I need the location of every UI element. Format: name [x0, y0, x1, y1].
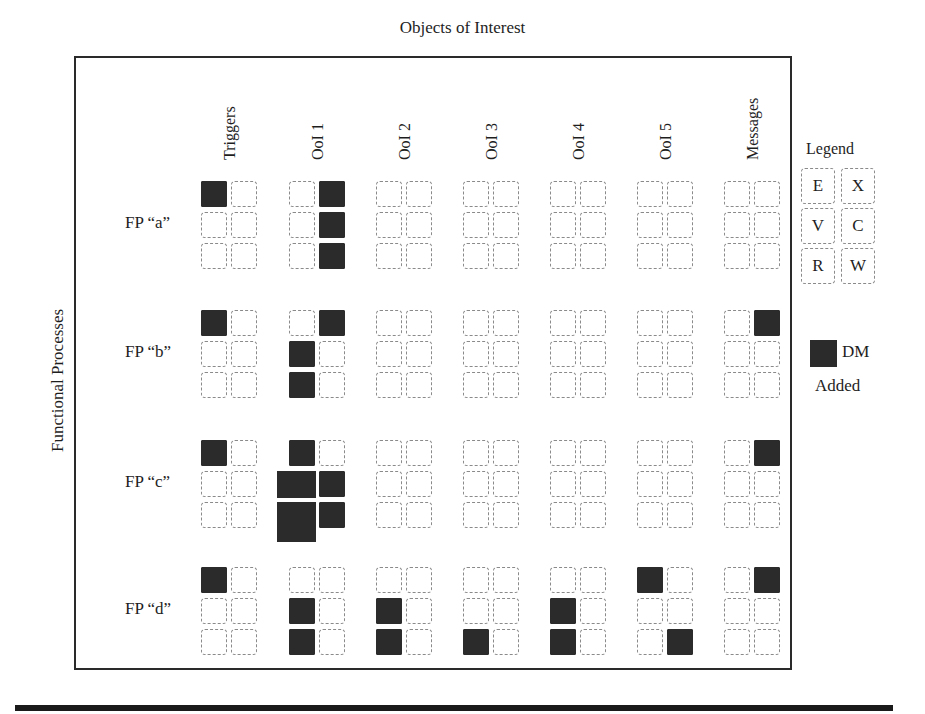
data-movement-cell-empty: [724, 310, 750, 336]
data-movement-cell-empty: [637, 310, 663, 336]
data-movement-cell-empty: [406, 212, 432, 238]
data-movement-cell-empty: [231, 440, 257, 466]
data-movement-cell-empty: [231, 212, 257, 238]
data-movement-cell-empty: [463, 598, 489, 624]
legend-cell-c: C: [841, 208, 875, 244]
legend-cell-e: E: [801, 168, 835, 204]
data-movement-cell-empty: [637, 372, 663, 398]
data-movement-cell-empty: [319, 567, 345, 593]
data-movement-cell-empty: [201, 212, 227, 238]
data-movement-cell-empty: [376, 372, 402, 398]
data-movement-cell-empty: [550, 212, 576, 238]
diagram-title: Objects of Interest: [0, 18, 925, 38]
data-movement-cell-empty: [319, 629, 345, 655]
data-movement-cell-empty: [580, 181, 606, 207]
data-movement-cell-empty: [376, 471, 402, 497]
data-movement-cell-empty: [463, 181, 489, 207]
data-movement-cell-empty: [493, 310, 519, 336]
data-movement-cell-empty: [463, 440, 489, 466]
data-movement-cell-empty: [637, 243, 663, 269]
column-header-ooi-5: OoI 5: [657, 123, 675, 160]
column-header-triggers: Triggers: [221, 106, 239, 160]
data-movement-cell-empty: [724, 471, 750, 497]
data-movement-cell-filled-large: [277, 471, 316, 498]
data-movement-cell-empty: [463, 502, 489, 528]
data-movement-cell-empty: [667, 440, 693, 466]
data-movement-cell-empty: [550, 440, 576, 466]
data-movement-cell-empty: [724, 243, 750, 269]
data-movement-cell-empty: [580, 243, 606, 269]
data-movement-cell-filled: [376, 598, 402, 624]
data-movement-cell-empty: [754, 629, 780, 655]
data-movement-cell-empty: [667, 598, 693, 624]
data-movement-cell-empty: [376, 440, 402, 466]
data-movement-cell-empty: [231, 502, 257, 528]
data-movement-cell-empty: [493, 471, 519, 497]
data-movement-cell-empty: [724, 372, 750, 398]
data-movement-cell-empty: [231, 372, 257, 398]
data-movement-cell-empty: [667, 212, 693, 238]
data-movement-cell-empty: [231, 598, 257, 624]
data-movement-cell-filled: [376, 629, 402, 655]
column-header-ooi-2: OoI 2: [396, 123, 414, 160]
data-movement-cell-empty: [580, 567, 606, 593]
data-movement-cell-empty: [319, 372, 345, 398]
data-movement-cell-empty: [406, 181, 432, 207]
legend-title: Legend: [806, 140, 854, 158]
data-movement-cell-empty: [550, 310, 576, 336]
data-movement-cell-empty: [550, 502, 576, 528]
data-movement-cell-empty: [406, 502, 432, 528]
data-movement-cell-empty: [289, 310, 315, 336]
data-movement-cell-filled: [201, 567, 227, 593]
data-movement-cell-empty: [289, 212, 315, 238]
data-movement-cell-empty: [463, 310, 489, 336]
data-movement-cell-empty: [289, 567, 315, 593]
data-movement-cell-empty: [637, 629, 663, 655]
data-movement-cell-empty: [580, 502, 606, 528]
data-movement-cell-filled: [289, 598, 315, 624]
data-movement-cell-empty: [463, 567, 489, 593]
data-movement-cell-empty: [376, 243, 402, 269]
data-movement-cell-empty: [667, 567, 693, 593]
data-movement-cell-empty: [376, 341, 402, 367]
data-movement-cell-empty: [493, 341, 519, 367]
column-header-messages: Messages: [744, 98, 762, 160]
data-movement-cell-filled: [754, 440, 780, 466]
data-movement-cell-empty: [201, 598, 227, 624]
data-movement-cell-filled: [289, 440, 315, 466]
y-axis-label: Functional Processes: [48, 309, 68, 452]
data-movement-cell-filled: [319, 212, 345, 238]
data-movement-cell-filled: [463, 629, 489, 655]
data-movement-cell-empty: [406, 372, 432, 398]
data-movement-cell-empty: [580, 341, 606, 367]
data-movement-cell-empty: [724, 212, 750, 238]
data-movement-cell-empty: [493, 598, 519, 624]
data-movement-cell-empty: [754, 341, 780, 367]
data-movement-cell-empty: [376, 502, 402, 528]
data-movement-cell-empty: [580, 598, 606, 624]
data-movement-cell-empty: [550, 471, 576, 497]
data-movement-cell-empty: [231, 567, 257, 593]
data-movement-cell-empty: [667, 502, 693, 528]
data-movement-cell-empty: [201, 243, 227, 269]
data-movement-cell-empty: [493, 629, 519, 655]
data-movement-cell-empty: [550, 567, 576, 593]
data-movement-cell-filled: [201, 181, 227, 207]
data-movement-cell-empty: [580, 310, 606, 336]
dm-swatch: [810, 340, 837, 367]
data-movement-cell-filled: [637, 567, 663, 593]
data-movement-cell-empty: [754, 212, 780, 238]
data-movement-cell-empty: [463, 372, 489, 398]
data-movement-cell-filled: [550, 629, 576, 655]
data-movement-cell-filled: [319, 243, 345, 269]
data-movement-cell-empty: [201, 471, 227, 497]
data-movement-cell-empty: [493, 243, 519, 269]
data-movement-cell-empty: [493, 181, 519, 207]
data-movement-cell-empty: [493, 372, 519, 398]
data-movement-cell-empty: [550, 341, 576, 367]
data-movement-cell-filled: [550, 598, 576, 624]
data-movement-cell-empty: [550, 243, 576, 269]
data-movement-cell-empty: [406, 243, 432, 269]
data-movement-cell-empty: [231, 341, 257, 367]
data-movement-cell-empty: [724, 567, 750, 593]
